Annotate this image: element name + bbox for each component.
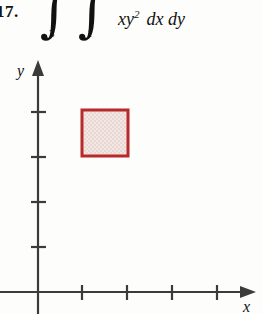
coordinate-graph: y x xyxy=(0,56,262,314)
integration-region-square xyxy=(82,110,128,156)
y-axis-arrow-icon xyxy=(32,60,44,76)
outer-integral: ∫ 3 xyxy=(40,0,74,46)
differentials: dx dy xyxy=(146,9,184,29)
inner-integral: ∫ 1 xyxy=(78,0,112,46)
integrand-exponent: 2 xyxy=(134,8,140,20)
integrand-expression: xy2dx dy xyxy=(118,8,185,30)
x-axis-arrow-icon xyxy=(240,286,256,298)
y-axis-label: y xyxy=(15,62,25,80)
problem-expression: 17. ∫ 3 ∫ 1 xy2dx dy xyxy=(0,0,262,56)
outer-integral-lower-limit: 3 xyxy=(49,27,55,39)
figure-page: 17. ∫ 3 ∫ 1 xy2dx dy xyxy=(0,0,262,314)
integrand-base: xy xyxy=(118,9,134,29)
inner-integral-lower-limit: 1 xyxy=(87,27,93,39)
problem-number: 17. xyxy=(0,2,19,22)
x-axis-label: x xyxy=(242,298,250,314)
